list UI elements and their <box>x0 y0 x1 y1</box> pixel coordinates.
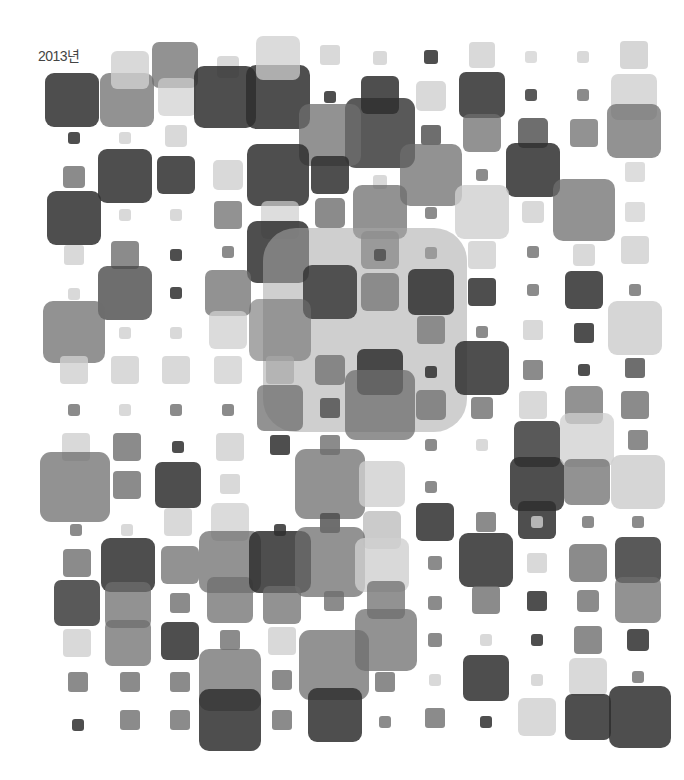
rounded-square <box>121 524 133 536</box>
rounded-square <box>565 271 603 309</box>
rounded-square <box>214 201 242 229</box>
rounded-square <box>170 209 182 221</box>
rounded-square <box>629 284 641 296</box>
rounded-square <box>468 278 496 306</box>
rounded-square <box>476 169 488 181</box>
rounded-square <box>68 132 80 144</box>
rounded-square <box>256 36 300 80</box>
rounded-square <box>625 162 645 182</box>
rounded-square <box>408 269 454 315</box>
rounded-square <box>523 360 543 380</box>
rounded-square <box>523 320 543 340</box>
rounded-square <box>506 143 560 197</box>
rounded-square <box>220 630 240 650</box>
rounded-square <box>111 51 149 89</box>
rounded-square <box>379 716 391 728</box>
rounded-square <box>63 166 85 188</box>
rounded-square <box>476 512 496 532</box>
rounded-square <box>170 710 190 730</box>
rounded-square <box>416 81 446 111</box>
rounded-square <box>531 516 543 528</box>
square-mosaic-artwork <box>0 0 684 780</box>
rounded-square <box>615 577 661 623</box>
rounded-square <box>98 266 152 320</box>
rounded-square <box>155 462 201 508</box>
rounded-square <box>417 316 445 344</box>
rounded-square <box>564 459 610 505</box>
rounded-square <box>64 245 84 265</box>
rounded-square <box>72 719 84 731</box>
rounded-square <box>320 45 340 65</box>
rounded-square <box>628 430 648 450</box>
rounded-square <box>214 356 242 384</box>
rounded-square <box>525 51 537 63</box>
rounded-square <box>400 144 462 206</box>
rounded-square <box>565 694 611 740</box>
rounded-square <box>632 516 644 528</box>
rounded-square <box>627 629 649 651</box>
rounded-square <box>54 580 100 626</box>
rounded-square <box>609 686 671 748</box>
rounded-square <box>373 51 387 65</box>
rounded-square <box>625 358 645 378</box>
rounded-square <box>165 125 187 147</box>
rounded-square <box>172 441 184 453</box>
rounded-square <box>324 591 344 611</box>
rounded-square <box>577 590 599 612</box>
rounded-square <box>480 634 492 646</box>
rounded-square <box>315 355 345 385</box>
rounded-square <box>574 626 602 654</box>
rounded-square <box>577 89 589 101</box>
year-label: 2013년 <box>38 45 80 65</box>
rounded-square <box>315 198 345 228</box>
rounded-square <box>113 433 141 461</box>
rounded-square <box>111 241 139 269</box>
rounded-square <box>573 244 595 266</box>
rounded-square <box>272 670 292 690</box>
rounded-square <box>522 201 544 223</box>
rounded-square <box>621 236 649 264</box>
rounded-square <box>222 404 234 416</box>
rounded-square <box>199 689 261 751</box>
rounded-square <box>463 114 501 152</box>
rounded-square <box>455 341 509 395</box>
rounded-square <box>213 160 243 190</box>
rounded-square <box>158 78 196 116</box>
rounded-square <box>527 284 539 296</box>
rounded-square <box>170 327 182 339</box>
rounded-square <box>70 524 82 536</box>
rounded-square <box>480 716 492 728</box>
rounded-square <box>119 327 131 339</box>
rounded-square <box>222 246 234 258</box>
rounded-square <box>216 433 244 461</box>
rounded-square <box>105 620 151 666</box>
rounded-square <box>608 301 662 355</box>
rounded-square <box>531 674 543 686</box>
rounded-square <box>120 672 140 692</box>
rounded-square <box>170 404 182 416</box>
rounded-square <box>527 591 547 611</box>
rounded-square <box>119 132 131 144</box>
rounded-square <box>247 144 309 206</box>
rounded-square <box>574 323 594 343</box>
rounded-square <box>428 596 442 610</box>
rounded-square <box>263 586 301 624</box>
rounded-square <box>428 556 442 570</box>
rounded-square <box>170 249 182 261</box>
rounded-square <box>98 149 152 203</box>
rounded-square <box>425 207 437 219</box>
rounded-square <box>527 553 547 573</box>
rounded-square <box>471 397 493 419</box>
rounded-square <box>570 119 598 147</box>
rounded-square <box>525 89 537 101</box>
rounded-square <box>416 503 454 541</box>
rounded-square <box>459 72 505 118</box>
rounded-square <box>45 73 99 127</box>
rounded-square <box>463 655 509 701</box>
rounded-square <box>424 50 438 64</box>
rounded-square <box>209 311 247 349</box>
rounded-square <box>361 273 399 311</box>
rounded-square <box>220 474 240 494</box>
rounded-square <box>476 439 488 451</box>
rounded-square <box>268 627 296 655</box>
